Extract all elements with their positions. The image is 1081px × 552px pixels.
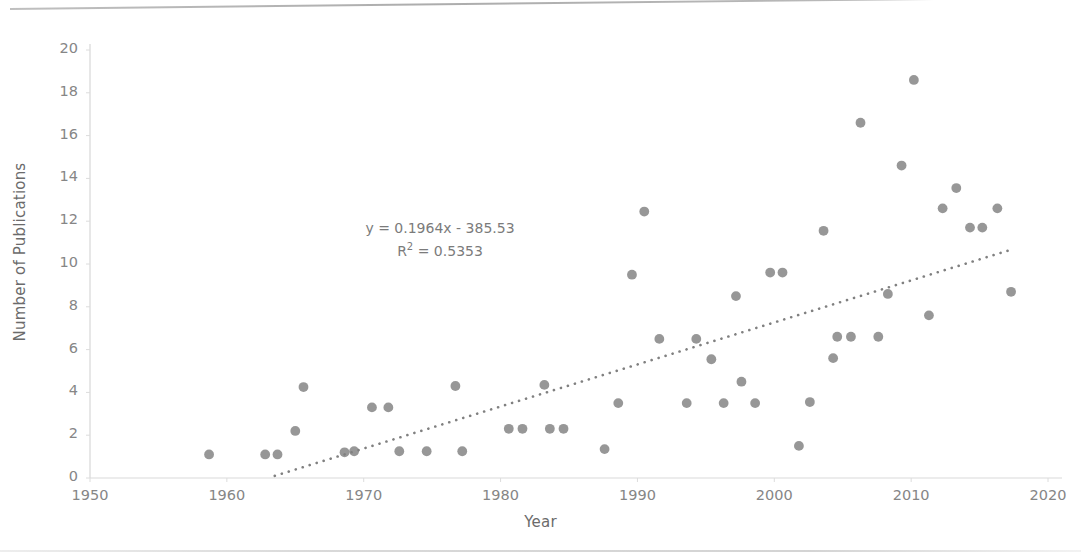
x-tick-label: 1960 [197, 487, 257, 503]
axis-lines [90, 44, 1062, 478]
r-squared-label: R [397, 243, 407, 259]
chart-page: 0246810121416182019501960197019801990200… [0, 0, 1081, 552]
r-squared-value: = 0.5353 [418, 243, 483, 259]
data-points [204, 75, 1016, 459]
x-tick-label: 1970 [334, 487, 394, 503]
y-tick-label: 14 [38, 168, 78, 184]
regression-equation-text: y = 0.1964x - 385.53 [290, 220, 590, 236]
y-tick-label: 12 [38, 211, 78, 227]
x-tick-label: 1990 [607, 487, 667, 503]
y-tick-label: 2 [38, 425, 78, 441]
x-axis-title: Year [0, 513, 1081, 531]
x-tick-label: 2010 [881, 487, 941, 503]
y-tick-label: 16 [38, 126, 78, 142]
y-tick-label: 20 [38, 40, 78, 56]
y-tick-label: 0 [38, 468, 78, 484]
x-tick-label: 1950 [60, 487, 120, 503]
trendline [275, 249, 1014, 476]
y-axis-title: Number of Publications [11, 152, 29, 352]
r-squared-text: R2 = 0.5353 [290, 241, 590, 259]
r-squared-superscript: 2 [407, 241, 413, 252]
x-tick-label: 2000 [744, 487, 804, 503]
x-tick-label: 1980 [471, 487, 531, 503]
y-tick-label: 4 [38, 382, 78, 398]
axis-tickmarks [86, 50, 1048, 482]
y-tick-label: 8 [38, 297, 78, 313]
scatter-plot-canvas [0, 0, 1081, 552]
y-tick-label: 18 [38, 83, 78, 99]
y-tick-label: 6 [38, 340, 78, 356]
x-tick-label: 2020 [1018, 487, 1078, 503]
y-tick-label: 10 [38, 254, 78, 270]
